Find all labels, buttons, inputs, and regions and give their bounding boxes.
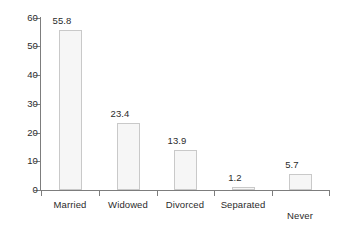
y-axis-label-60: 60 xyxy=(12,13,38,23)
x-axis-category-separated: Separated xyxy=(214,199,272,210)
y-axis-label-20: 20 xyxy=(12,128,38,138)
x-axis-tick xyxy=(99,191,100,196)
x-axis-category-never-married: Never married xyxy=(271,199,329,233)
bar-value-never-married: 5.7 xyxy=(279,160,305,170)
bar-value-divorced: 13.9 xyxy=(164,136,190,146)
bar-widowed[interactable] xyxy=(117,123,140,190)
bar-married[interactable] xyxy=(59,30,82,190)
x-axis-tick xyxy=(329,191,330,196)
y-axis-label-40: 40 xyxy=(12,70,38,80)
bar-separated[interactable] xyxy=(232,187,255,190)
x-axis-category-never-married-line1: Never xyxy=(287,210,313,221)
y-axis-label-50: 50 xyxy=(12,41,38,51)
x-axis-category-married: Married xyxy=(41,199,99,210)
bar-value-widowed: 23.4 xyxy=(107,109,133,119)
bar-never-married[interactable] xyxy=(289,174,312,190)
x-axis-category-divorced: Divorced xyxy=(156,199,214,210)
x-axis-tick xyxy=(272,191,273,196)
x-axis-tick xyxy=(214,191,215,196)
y-axis-label-10: 10 xyxy=(12,156,38,166)
x-axis-tick xyxy=(157,191,158,196)
bar-chart: 0 10 20 30 40 50 60 55.8 23.4 13.9 1.2 5… xyxy=(0,0,349,233)
y-axis-label-0: 0 xyxy=(12,185,38,195)
bar-value-separated: 1.2 xyxy=(222,173,248,183)
x-axis-line xyxy=(40,190,330,191)
y-axis-label-30: 30 xyxy=(12,99,38,109)
x-axis-tick xyxy=(41,191,42,196)
x-axis-category-widowed: Widowed xyxy=(99,199,157,210)
x-axis-category-never-married-line2: married xyxy=(284,232,317,233)
bar-value-married: 55.8 xyxy=(49,16,75,26)
bar-divorced[interactable] xyxy=(174,150,197,190)
